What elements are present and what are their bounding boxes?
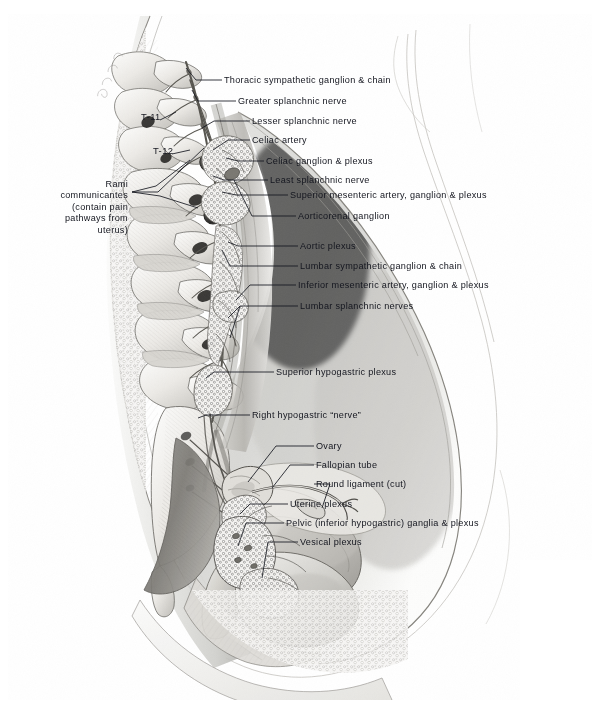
leader-lines: [0, 0, 592, 719]
label-text: Lumbar sympathetic ganglion & chain: [300, 261, 462, 271]
label-least-splanchnic-nerve: Least splanchnic nerve: [270, 175, 370, 186]
label-ovary: Ovary: [316, 441, 342, 452]
rami-line-3: (contain pain: [24, 202, 128, 213]
vertebra-marker-t12: T-12: [153, 145, 173, 156]
vertebra-marker-t12-label: T-12: [153, 145, 173, 156]
label-uterine-plexus: Uterine plexus: [290, 499, 352, 510]
label-fallopian-tube: Fallopian tube: [316, 460, 377, 471]
label-text: Celiac ganglion & plexus: [266, 156, 373, 166]
label-aortic-plexus: Aortic plexus: [300, 241, 356, 252]
label-text: Lesser splanchnic nerve: [252, 116, 357, 126]
label-vesical-plexus: Vesical plexus: [300, 537, 362, 548]
anatomical-plate: T-11 T-12 Rami communicantes (contain pa…: [0, 0, 592, 719]
label-text: Superior mesenteric artery, ganglion & p…: [290, 190, 487, 200]
label-lumbar-sympathetic-ganglion-chain: Lumbar sympathetic ganglion & chain: [300, 261, 462, 272]
label-text: Inferior mesenteric artery, ganglion & p…: [298, 280, 489, 290]
vertebra-marker-t11: T-11: [141, 111, 161, 122]
label-greater-splanchnic-nerve: Greater splanchnic nerve: [238, 96, 347, 107]
label-aorticorenal-ganglion: Aorticorenal ganglion: [298, 211, 390, 222]
label-round-ligament-cut: Round ligament (cut): [316, 479, 406, 490]
label-text: Uterine plexus: [290, 499, 352, 509]
label-celiac-ganglion-plexus: Celiac ganglion & plexus: [266, 156, 373, 167]
label-superior-hypogastric-plexus: Superior hypogastric plexus: [276, 367, 396, 378]
label-text: Celiac artery: [252, 135, 307, 145]
label-text: Least splanchnic nerve: [270, 175, 370, 185]
rami-line-2: communicantes: [24, 190, 128, 201]
label-lumbar-splanchnic-nerves: Lumbar splanchnic nerves: [300, 301, 413, 312]
rami-line-1: Rami: [24, 179, 128, 190]
label-thoracic-sympathetic-ganglion-chain: Thoracic sympathetic ganglion & chain: [224, 75, 391, 86]
label-pelvic-inferior-hypogastric-ganglia-plexus: Pelvic (inferior hypogastric) ganglia & …: [286, 518, 479, 529]
label-text: Vesical plexus: [300, 537, 362, 547]
label-text: Pelvic (inferior hypogastric) ganglia & …: [286, 518, 479, 528]
label-right-hypogastric-nerve: Right hypogastric “nerve”: [252, 410, 361, 421]
label-rami-communicantes: Rami communicantes (contain pain pathway…: [24, 179, 128, 236]
label-text: Round ligament (cut): [316, 479, 406, 489]
label-text: Superior hypogastric plexus: [276, 367, 396, 377]
label-inferior-mesenteric-artery-ganglion-plexus: Inferior mesenteric artery, ganglion & p…: [298, 280, 489, 291]
label-text: Fallopian tube: [316, 460, 377, 470]
label-text: Ovary: [316, 441, 342, 451]
rami-line-4: pathways from: [24, 213, 128, 224]
label-text: Aorticorenal ganglion: [298, 211, 390, 221]
vertebra-marker-t11-label: T-11: [141, 111, 161, 122]
rami-line-5: uterus): [24, 225, 128, 236]
label-celiac-artery: Celiac artery: [252, 135, 307, 146]
label-text: Lumbar splanchnic nerves: [300, 301, 413, 311]
label-text: Thoracic sympathetic ganglion & chain: [224, 75, 391, 85]
label-superior-mesenteric-artery-ganglion-plexus: Superior mesenteric artery, ganglion & p…: [290, 190, 487, 201]
label-text: Right hypogastric “nerve”: [252, 410, 361, 420]
label-lesser-splanchnic-nerve: Lesser splanchnic nerve: [252, 116, 357, 127]
label-text: Aortic plexus: [300, 241, 356, 251]
label-text: Greater splanchnic nerve: [238, 96, 347, 106]
